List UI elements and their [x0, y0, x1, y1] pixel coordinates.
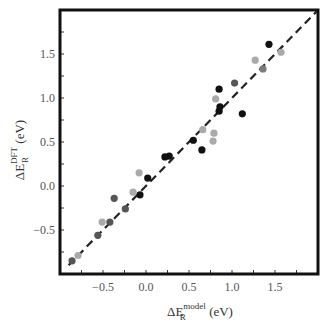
- x-axis-label: ΔEmodelR (eV): [167, 301, 233, 322]
- data-point-light-gray: [99, 218, 106, 225]
- y-tick-label: 0.5: [40, 135, 55, 149]
- data-point-black: [166, 152, 173, 159]
- data-point-dark-gray: [111, 195, 118, 202]
- data-point-light-gray: [136, 169, 143, 176]
- y-tick-label: 0.0: [40, 179, 55, 193]
- data-point-black: [136, 191, 143, 198]
- data-point-light-gray: [130, 189, 137, 196]
- data-point-light-gray: [277, 49, 284, 56]
- data-point-black: [239, 110, 246, 117]
- y-tick-labels: −0.50.00.51.01.5: [33, 47, 55, 237]
- data-point-light-gray: [212, 95, 219, 102]
- data-point-light-gray: [74, 252, 81, 259]
- y-axis-label: ΔEDFTR (eV): [9, 120, 30, 180]
- data-point-dark-gray: [94, 232, 101, 239]
- x-tick-label: −0.5: [92, 280, 114, 294]
- y-tick-label: 1.0: [40, 91, 55, 105]
- x-tick-label: 1.5: [268, 280, 283, 294]
- data-point-light-gray: [199, 126, 206, 133]
- data-point-light-gray: [209, 138, 216, 145]
- data-points: [68, 41, 284, 265]
- data-point-dark-gray: [68, 257, 75, 264]
- data-point-light-gray: [252, 57, 259, 64]
- data-point-dark-gray: [106, 218, 113, 225]
- y-tick-label: −0.5: [33, 223, 55, 237]
- data-point-black: [265, 41, 272, 48]
- data-point-black: [190, 137, 197, 144]
- x-tick-label: 1.0: [225, 280, 240, 294]
- data-point-black: [216, 103, 223, 110]
- scatter-chart: −0.50.00.51.01.5 −0.50.00.51.01.5 ΔEmode…: [0, 0, 329, 326]
- data-point-black: [144, 174, 151, 181]
- x-tick-labels: −0.50.00.51.01.5: [92, 280, 282, 294]
- data-point-dark-gray: [231, 79, 238, 86]
- data-point-dark-gray: [122, 205, 129, 212]
- data-point-black: [198, 146, 205, 153]
- x-tick-label: 0.0: [139, 280, 154, 294]
- x-tick-label: 0.5: [182, 280, 197, 294]
- data-point-black: [216, 86, 223, 93]
- data-point-light-gray: [210, 130, 217, 137]
- y-tick-label: 1.5: [40, 47, 55, 61]
- data-point-medium-gray: [259, 65, 266, 72]
